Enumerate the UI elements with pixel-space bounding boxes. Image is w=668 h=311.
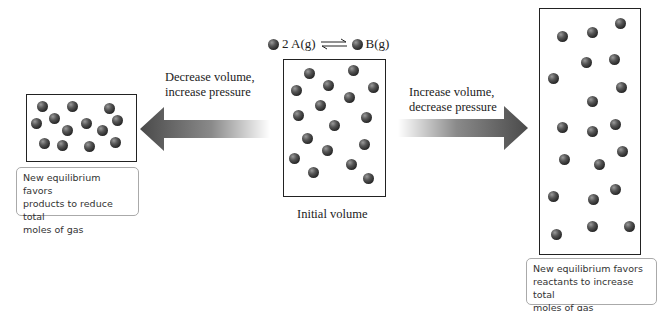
molecule-b-icon — [352, 39, 363, 50]
compressed-container — [26, 94, 137, 162]
product-label: B(g) — [366, 36, 390, 52]
initial-volume-caption: Initial volume — [297, 207, 367, 222]
products-favored-note: New equilibrium favors products to reduc… — [16, 167, 139, 216]
expanded-container — [539, 8, 641, 255]
equilibrium-equation: 2 A(g) B(g) — [268, 36, 389, 52]
left-arrow-label: Decrease volume, increase pressure — [165, 70, 255, 100]
molecule-a-icon — [268, 39, 279, 50]
reactants-favored-note: New equilibrium favors reactants to incr… — [526, 258, 657, 305]
left-arrow-icon — [140, 103, 270, 155]
equilibrium-arrows-icon — [319, 38, 349, 50]
right-arrow-label: Increase volume, decrease pressure — [409, 85, 497, 115]
initial-container — [283, 59, 386, 197]
reactant-label: 2 A(g) — [282, 36, 316, 52]
